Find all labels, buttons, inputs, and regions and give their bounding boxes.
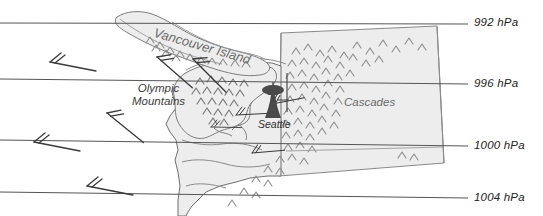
label-cascades: Cascades — [344, 96, 395, 109]
label-olympic-line1: Olympic — [132, 82, 185, 95]
isobar-label-1000: 1000 hPa — [474, 139, 525, 151]
isobar-line-1004 — [0, 192, 468, 198]
isobar-label-1004: 1004 hPa — [474, 191, 525, 203]
isobar-label-996: 996 hPa — [474, 77, 518, 89]
wind-barb-2 — [34, 133, 80, 151]
pressure-map-figure: Vancouver Island Olympic Mountains Casca… — [0, 0, 543, 216]
wind-barb-4 — [103, 105, 152, 142]
label-olympic-mountains: Olympic Mountains — [132, 82, 185, 108]
wind-barb-1 — [50, 53, 96, 71]
map-canvas — [0, 0, 543, 216]
isobar-label-992: 992 hPa — [474, 16, 518, 28]
label-seattle: Seattle — [258, 118, 291, 130]
isobar-line-992 — [0, 23, 468, 24]
wind-barb-3 — [87, 177, 133, 195]
label-olympic-line2: Mountains — [132, 95, 185, 108]
